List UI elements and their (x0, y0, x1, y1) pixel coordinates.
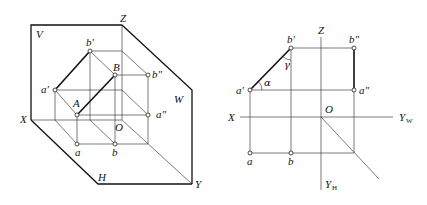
label-v-plane: V (36, 28, 44, 40)
label-y: Y (195, 178, 203, 190)
label-b-double-prime: b" (152, 68, 163, 80)
point-a-prime (53, 88, 57, 92)
label-B: B (113, 61, 120, 73)
label-z: Z (318, 24, 325, 36)
label-a-prime: a' (41, 83, 50, 95)
label-b: b (112, 146, 118, 158)
label-A: A (72, 97, 80, 109)
point-b-prime (88, 49, 92, 53)
point-b-prime (289, 46, 293, 50)
line-AB (77, 75, 115, 115)
label-a: a (247, 155, 253, 167)
point-a-double-prime (146, 113, 150, 117)
right-orthographic-figure: Z X O Y W Y H b' b" a' a" a b α γ (227, 24, 413, 192)
label-yw-sub: W (406, 117, 413, 125)
label-gamma: γ (284, 59, 290, 70)
point-B (113, 73, 117, 77)
label-a: a (75, 146, 81, 158)
projection-lines (55, 51, 148, 144)
label-origin: O (325, 103, 333, 115)
label-a-double-prime: a" (156, 108, 167, 120)
45-degree-line (321, 117, 379, 179)
point-a-double-prime (352, 88, 356, 92)
label-h-plane: H (97, 171, 107, 183)
label-b: b (288, 155, 294, 167)
label-a-prime: a' (236, 84, 245, 96)
point-b-double-prime (352, 46, 356, 50)
projection-lines (250, 48, 354, 153)
label-a-double-prime: a" (359, 84, 370, 96)
alpha-arc (258, 81, 262, 90)
label-b-prime: b' (287, 33, 296, 45)
left-pictorial-figure: V W H Z X Y O b' B b" a' A a" a b (19, 12, 203, 190)
label-b-prime: b' (86, 36, 95, 48)
point-b-double-prime (146, 73, 150, 77)
label-x: X (19, 113, 28, 125)
label-origin: O (115, 121, 123, 133)
point-a-prime (248, 88, 252, 92)
label-b-double-prime: b" (349, 33, 360, 45)
label-z: Z (120, 12, 127, 24)
label-yh-sub: H (332, 184, 337, 192)
point-A (75, 113, 79, 117)
label-x: X (227, 111, 236, 123)
line-a-prime-b-prime (55, 51, 90, 90)
projection-diagram: V W H Z X Y O b' B b" a' A a" a b (0, 0, 427, 205)
y-axis (122, 120, 192, 184)
label-w-plane: W (174, 93, 184, 105)
label-alpha: α (264, 77, 271, 88)
